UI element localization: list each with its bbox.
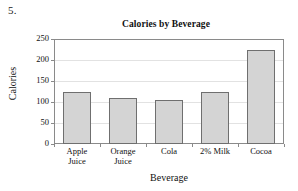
x-axis-tick-label-line: 2% Milk (192, 146, 238, 156)
bar (155, 100, 183, 144)
y-axis-tick-label: 200 (9, 55, 49, 64)
x-axis-tick-label: Cola (146, 146, 192, 156)
figure-page: 5. Calories by Beverage Calories 0501001… (0, 0, 298, 191)
chart-title: Calories by Beverage (46, 19, 286, 29)
bar-series (54, 39, 284, 144)
x-axis-tick-label: Cocoa (238, 146, 284, 156)
y-axis-tick-label: 0 (9, 139, 49, 148)
x-axis-tick-label-line: Cola (146, 146, 192, 156)
bar (201, 92, 229, 145)
x-axis-tick-labels: AppleJuiceOrangeJuiceCola2% MilkCocoa (54, 146, 284, 172)
bar-slot (54, 39, 100, 144)
x-axis-tick-label-line: Apple (54, 146, 100, 156)
x-axis-tick-label-line: Cocoa (238, 146, 284, 156)
x-axis-tick-label-line: Orange (100, 146, 146, 156)
y-axis-tick-label: 100 (9, 97, 49, 106)
bar-slot (238, 39, 284, 144)
bar-slot (146, 39, 192, 144)
bar-slot (192, 39, 238, 144)
x-axis-tick-label: 2% Milk (192, 146, 238, 156)
x-axis-tick-mark (284, 144, 285, 147)
bar (247, 50, 275, 145)
bar-chart-figure: Calories by Beverage Calories 0501001502… (0, 16, 298, 191)
bar (63, 92, 91, 145)
problem-number: 5. (8, 4, 17, 16)
y-axis-tick-label: 150 (9, 76, 49, 85)
y-axis-tick-label: 250 (9, 34, 49, 43)
x-axis-title: Beverage (54, 172, 284, 183)
bar (109, 98, 137, 144)
x-axis-tick-label-line: Juice (100, 156, 146, 166)
bar-slot (100, 39, 146, 144)
x-axis-tick-label-line: Juice (54, 156, 100, 166)
y-axis-tick-label: 50 (9, 118, 49, 127)
x-axis-tick-label: OrangeJuice (100, 146, 146, 166)
x-axis-tick-label: AppleJuice (54, 146, 100, 166)
